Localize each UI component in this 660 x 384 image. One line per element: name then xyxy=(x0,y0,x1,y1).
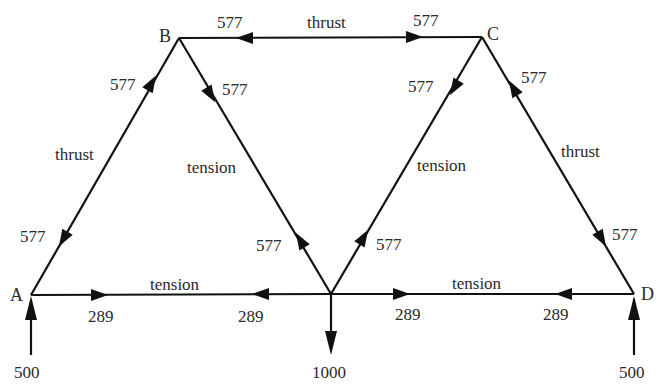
load-m-arrow-icon xyxy=(325,331,337,355)
node-a-label: A xyxy=(10,285,23,305)
member-cd xyxy=(482,37,634,294)
force-cm-top: 577 xyxy=(408,77,434,96)
force-cm-bottom: 577 xyxy=(376,235,402,254)
reaction-a-arrow-icon xyxy=(25,296,37,320)
type-ab: thrust xyxy=(55,145,94,164)
truss-diagram: A B C D 577 577 577 577 577 577 577 577 … xyxy=(0,0,660,384)
force-labels: 577 577 577 577 577 577 577 577 577 577 … xyxy=(20,11,638,326)
member-bc xyxy=(179,37,482,38)
force-bm-top: 577 xyxy=(222,80,248,99)
type-cm: tension xyxy=(417,156,467,175)
arrow-cm-bottom-icon xyxy=(354,227,373,248)
force-cd-top: 577 xyxy=(521,68,547,87)
type-bm: tension xyxy=(187,158,237,177)
type-cd: thrust xyxy=(561,142,600,161)
arrow-md-right-icon xyxy=(555,288,572,300)
force-ab-bottom: 577 xyxy=(20,227,46,246)
member-type-labels: thrust thrust thrust tension tension ten… xyxy=(55,13,600,294)
type-bc: thrust xyxy=(307,13,346,32)
arrow-bc-right-icon xyxy=(406,31,423,43)
load-m-value: 1000 xyxy=(312,363,346,382)
member-ab xyxy=(31,38,179,295)
force-cd-bottom: 577 xyxy=(612,225,638,244)
node-d-label: D xyxy=(641,284,654,304)
reaction-d-arrow-icon xyxy=(628,296,640,320)
force-ab-top: 577 xyxy=(110,75,136,94)
force-bc-left: 577 xyxy=(217,13,243,32)
reaction-a-value: 500 xyxy=(14,363,40,382)
force-am-left: 289 xyxy=(88,307,114,326)
member-am xyxy=(31,294,331,295)
node-b-label: B xyxy=(159,26,171,46)
arrow-am-left-icon xyxy=(91,289,108,301)
arrow-am-right-icon xyxy=(252,288,269,300)
arrow-ab-bottom-icon xyxy=(54,229,73,250)
force-bc-right: 577 xyxy=(413,11,439,30)
arrow-md-left-icon xyxy=(393,288,410,300)
load-labels: 500 1000 500 xyxy=(14,363,645,382)
type-am: tension xyxy=(150,275,200,294)
reaction-d-value: 500 xyxy=(619,363,645,382)
arrow-cd-bottom-icon xyxy=(592,229,611,250)
type-md: tension xyxy=(452,274,502,293)
force-bm-bottom: 577 xyxy=(256,236,282,255)
node-c-label: C xyxy=(487,24,499,44)
force-md-right: 289 xyxy=(543,305,569,324)
arrow-bc-left-icon xyxy=(236,32,253,44)
force-am-right: 289 xyxy=(238,307,264,326)
force-md-left: 289 xyxy=(395,305,421,324)
